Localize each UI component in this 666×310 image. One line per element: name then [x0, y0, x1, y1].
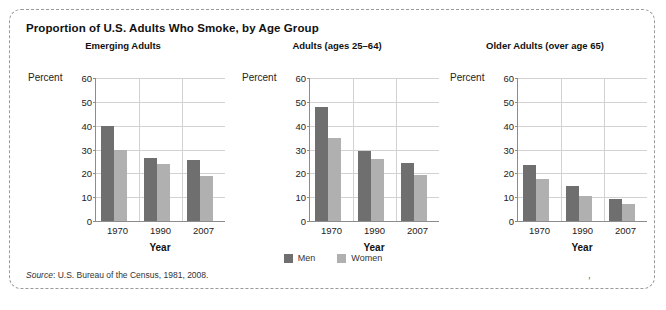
y-axis-tick-label: 60 [503, 73, 514, 84]
chart-title: Emerging Adults [18, 40, 228, 51]
figure-title: Proportion of U.S. Adults Who Smoke, by … [26, 22, 319, 34]
chart-legend: Men Women [10, 253, 656, 263]
bar-women-1990 [371, 159, 384, 221]
plot-area: 0102030405060197019902007 [517, 78, 647, 222]
y-axis-label: Percent [242, 72, 276, 83]
y-axis-tick-mark [515, 221, 518, 222]
bar-men-2007 [609, 199, 622, 221]
chart-title: Adults (ages 25–64) [232, 40, 442, 51]
y-axis-tick-label: 60 [81, 73, 92, 84]
y-axis-tick-label: 40 [81, 120, 92, 131]
bar-women-2007 [200, 176, 213, 221]
bar-men-1990 [144, 158, 157, 221]
y-axis-label: Percent [450, 72, 484, 83]
y-axis-tick-label: 20 [295, 168, 306, 179]
legend-item-men: Men [284, 253, 316, 263]
bar-women-2007 [414, 175, 427, 221]
bar-men-1970 [523, 165, 536, 221]
y-axis-tick-mark [307, 221, 310, 222]
y-axis-tick-label: 0 [87, 216, 92, 227]
legend-swatch-men-icon [284, 254, 293, 263]
bar-women-2007 [622, 204, 635, 221]
x-axis-tick-label: 1970 [529, 225, 550, 236]
chart-panel-older-adults: Older Adults (over age 65) Percent 01020… [440, 40, 650, 245]
bar-group: 1990 [353, 78, 396, 221]
y-axis-tick-label: 20 [81, 168, 92, 179]
bar-women-1990 [157, 164, 170, 221]
x-axis-tick-label: 1990 [572, 225, 593, 236]
y-axis-tick-label: 10 [295, 192, 306, 203]
y-axis-tick-mark [93, 221, 96, 222]
y-axis-tick-label: 10 [81, 192, 92, 203]
x-axis-tick-label: 1970 [107, 225, 128, 236]
y-axis-tick-label: 50 [295, 96, 306, 107]
x-axis-label: Year [309, 242, 439, 253]
bar-men-1990 [358, 151, 371, 221]
legend-swatch-women-icon [337, 254, 346, 263]
legend-label: Men [298, 253, 316, 263]
source-rest: : U.S. Bureau of the Census, 1981, 2008. [53, 270, 208, 280]
plot-area: 0102030405060197019902007 [95, 78, 225, 222]
bar-women-1990 [579, 196, 592, 221]
y-axis-tick-label: 30 [295, 144, 306, 155]
source-word: Source [26, 270, 53, 280]
bar-group: 1990 [139, 78, 182, 221]
legend-item-women: Women [337, 253, 382, 263]
bar-men-2007 [187, 160, 200, 221]
y-axis-tick-label: 0 [509, 216, 514, 227]
bar-group: 1970 [310, 78, 353, 221]
bar-group: 2007 [182, 78, 225, 221]
legend-label: Women [351, 253, 382, 263]
y-axis-label: Percent [28, 72, 62, 83]
bar-men-2007 [401, 163, 414, 221]
bar-women-1970 [114, 150, 127, 222]
plot-area: 0102030405060197019902007 [309, 78, 439, 222]
x-axis-tick-label: 1990 [364, 225, 385, 236]
y-axis-tick-label: 50 [81, 96, 92, 107]
bar-men-1990 [566, 186, 579, 221]
x-axis-tick-label: 2007 [615, 225, 636, 236]
figure-frame: Proportion of U.S. Adults Who Smoke, by … [9, 9, 655, 289]
x-axis-tick-label: 1990 [150, 225, 171, 236]
y-axis-tick-label: 30 [81, 144, 92, 155]
x-axis-label: Year [517, 242, 647, 253]
y-axis-tick-label: 0 [301, 216, 306, 227]
chart-panel-emerging-adults: Emerging Adults Percent 0102030405060197… [18, 40, 228, 245]
y-axis-tick-label: 40 [295, 120, 306, 131]
bar-group: 1990 [561, 78, 604, 221]
x-axis-label: Year [95, 242, 225, 253]
bar-women-1970 [328, 138, 341, 221]
bar-group: 2007 [396, 78, 439, 221]
bar-group: 1970 [96, 78, 139, 221]
y-axis-tick-label: 10 [503, 192, 514, 203]
x-axis-tick-label: 2007 [407, 225, 428, 236]
y-axis-tick-label: 50 [503, 96, 514, 107]
y-axis-tick-label: 20 [503, 168, 514, 179]
x-axis-tick-label: 2007 [193, 225, 214, 236]
chart-panel-adults-25-64: Adults (ages 25–64) Percent 010203040506… [232, 40, 442, 245]
bar-women-1970 [536, 179, 549, 221]
y-axis-tick-label: 40 [503, 120, 514, 131]
bar-group: 1970 [518, 78, 561, 221]
stray-apostrophe-mark: ′ [588, 276, 590, 287]
chart-title: Older Adults (over age 65) [440, 40, 650, 51]
bar-group: 2007 [604, 78, 647, 221]
bar-men-1970 [315, 107, 328, 221]
y-axis-tick-label: 30 [503, 144, 514, 155]
y-axis-tick-label: 60 [295, 73, 306, 84]
source-note: Source: U.S. Bureau of the Census, 1981,… [26, 270, 208, 280]
bar-men-1970 [101, 126, 114, 221]
x-axis-tick-label: 1970 [321, 225, 342, 236]
